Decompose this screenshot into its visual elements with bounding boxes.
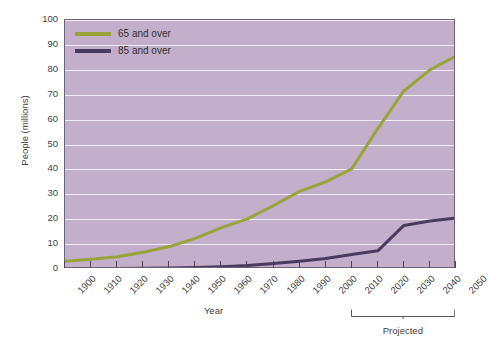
y-axis-tick-label: 50	[32, 139, 58, 149]
x-axis-tick	[220, 261, 221, 268]
x-axis-tick-label: 2010	[362, 273, 385, 296]
legend-label: 85 and over	[118, 45, 171, 56]
x-axis-tick	[168, 261, 169, 268]
x-axis-tick-label: 2040	[440, 273, 463, 296]
x-axis-tick-label: 2050	[466, 273, 489, 296]
x-axis-tick	[429, 261, 430, 268]
y-axis-tick-label: 80	[32, 64, 58, 74]
x-axis-tick	[351, 261, 352, 268]
x-axis-tick-label: 1940	[179, 273, 202, 296]
x-axis-tick-label: 1960	[232, 273, 255, 296]
y-axis-tick-label: 60	[32, 114, 58, 124]
legend-swatch	[75, 49, 111, 53]
x-axis-tick	[325, 261, 326, 268]
x-axis-tick	[455, 261, 456, 268]
x-axis-tick-label: 1910	[101, 273, 124, 296]
y-axis-tick-label: 100	[32, 14, 58, 24]
projected-bracket-icon	[351, 309, 455, 319]
x-axis-tick-label: 1970	[258, 273, 281, 296]
x-axis-tick	[142, 261, 143, 268]
y-axis-tick-label: 0	[32, 263, 58, 273]
x-axis-tick	[194, 261, 195, 268]
x-axis-title-text: Year	[204, 305, 223, 316]
legend-item: 65 and over	[75, 25, 225, 42]
x-axis-tick-label: 1950	[206, 273, 229, 296]
x-axis-tick	[403, 261, 404, 268]
x-axis-tick-label: 1980	[284, 273, 307, 296]
x-axis-tick	[90, 261, 91, 268]
y-axis-tick-label: 90	[32, 39, 58, 49]
x-axis-tick-label: 2020	[388, 273, 411, 296]
legend-item: 85 and over	[75, 42, 225, 59]
x-axis-tick	[246, 261, 247, 268]
y-axis-tick-label: 10	[32, 238, 58, 248]
series-line	[65, 218, 454, 267]
y-axis-tick-label: 40	[32, 163, 58, 173]
x-axis-tick-label: 2000	[336, 273, 359, 296]
legend-swatch	[75, 32, 111, 36]
y-axis-tick-label: 20	[32, 213, 58, 223]
chart-legend: 65 and over85 and over	[75, 25, 225, 59]
y-axis-tick-label: 70	[32, 89, 58, 99]
series-line	[65, 56, 454, 261]
x-axis-tick	[377, 261, 378, 268]
x-axis-tick	[299, 261, 300, 268]
x-axis-tick	[273, 261, 274, 268]
x-axis-tick-label: 1920	[127, 273, 150, 296]
x-axis-tick	[64, 261, 65, 268]
x-axis-tick-label: 2030	[414, 273, 437, 296]
x-axis-tick-label: 1990	[310, 273, 333, 296]
x-axis-tick-label: 1930	[153, 273, 176, 296]
x-axis-tick-label: 1900	[75, 273, 98, 296]
legend-label: 65 and over	[118, 28, 171, 39]
y-axis-tick-labels: 0102030405060708090100	[28, 0, 58, 349]
y-axis-tick-label: 30	[32, 188, 58, 198]
x-axis-tick	[116, 261, 117, 268]
projected-label: Projected	[351, 325, 455, 336]
